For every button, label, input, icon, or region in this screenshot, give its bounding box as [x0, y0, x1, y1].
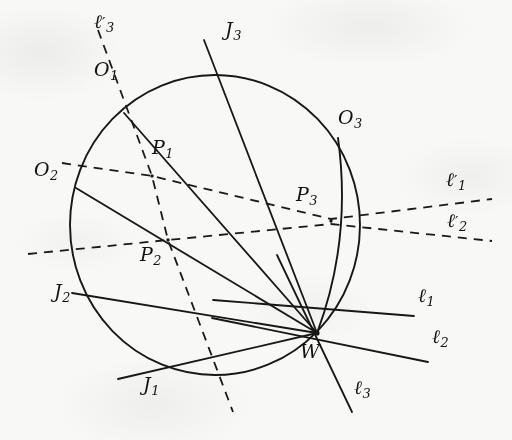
label-line-l2: ℓ2: [432, 327, 449, 350]
label-J1: J1: [143, 375, 159, 398]
label-J2: J2: [54, 282, 70, 305]
line-l1-through-W: [213, 300, 414, 316]
geometry-diagram-svg: [0, 0, 512, 440]
point-W-marker: [314, 330, 319, 335]
label-line-l1: ℓ1: [418, 286, 435, 309]
line-l3-prime: [98, 30, 233, 412]
line-l2-prime: [28, 224, 492, 254]
figure-canvas: O1 O2 O3 P1 P2 P3 J1 J2 J3 W ℓ1 ℓ2 ℓ3 ℓ′…: [0, 0, 512, 440]
point-P1-marker: [150, 174, 153, 177]
label-W: W: [300, 342, 320, 361]
point-P3-marker: [329, 219, 332, 222]
chord-O2-to-W: [76, 188, 317, 333]
label-line-l3-prime: ℓ′3: [94, 12, 114, 35]
label-O3: O3: [338, 108, 362, 131]
label-line-l1-prime: ℓ′1: [446, 170, 466, 193]
label-O1: O1: [94, 60, 118, 83]
label-P3: P3: [296, 185, 318, 208]
label-line-l2-prime: ℓ′2: [447, 211, 467, 234]
label-P2: P2: [140, 245, 162, 268]
label-P1: P1: [152, 138, 174, 161]
point-P2-marker: [166, 238, 169, 241]
line-l1-prime: [62, 163, 492, 219]
label-O2: O2: [34, 160, 58, 183]
label-line-l3: ℓ3: [354, 378, 371, 401]
label-J3: J3: [225, 20, 241, 43]
